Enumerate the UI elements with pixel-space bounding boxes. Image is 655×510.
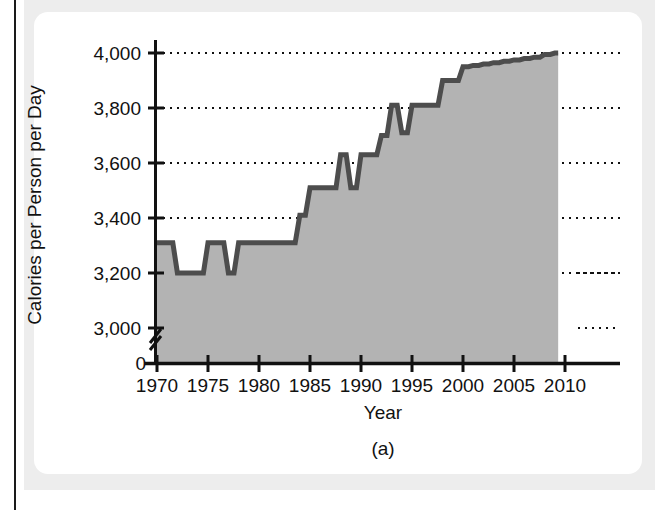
calories-area-chart: 3,0003,2003,4003,6003,8004,000 197019751…: [0, 0, 655, 510]
x-axis-tick-label: 2005: [493, 375, 535, 396]
x-axis-tick-label: 1980: [238, 375, 280, 396]
y-axis-zero-label: 0: [135, 353, 146, 374]
area-fill: [157, 53, 558, 362]
figure-caption: (a): [371, 438, 394, 459]
x-axis-tick-label: 2010: [544, 375, 586, 396]
x-axis-tick-label: 1970: [136, 375, 178, 396]
x-axis-title: Year: [364, 402, 403, 423]
y-axis-tick-label: 3,400: [93, 208, 141, 229]
y-axis-title: Calories per Person per Day: [24, 85, 45, 325]
x-axis-tick-label: 1990: [340, 375, 382, 396]
y-axis-tick-labels: 3,0003,2003,4003,6003,8004,000: [93, 43, 141, 339]
y-axis-tick-label: 3,000: [93, 318, 141, 339]
y-axis-tick-label: 4,000: [93, 43, 141, 64]
x-axis-tick-labels: 197019751980198519901995200020052010: [136, 375, 586, 396]
x-axis-tick-label: 1975: [187, 375, 229, 396]
x-axis-tick-label: 1995: [391, 375, 433, 396]
figure-page: 3,0003,2003,4003,6003,8004,000 197019751…: [0, 0, 655, 510]
x-axis-tick-label: 2000: [442, 375, 484, 396]
y-axis-tick-label: 3,200: [93, 263, 141, 284]
y-axis-tick-label: 3,600: [93, 153, 141, 174]
x-axis-tick-label: 1985: [289, 375, 331, 396]
y-axis-tick-label: 3,800: [93, 98, 141, 119]
